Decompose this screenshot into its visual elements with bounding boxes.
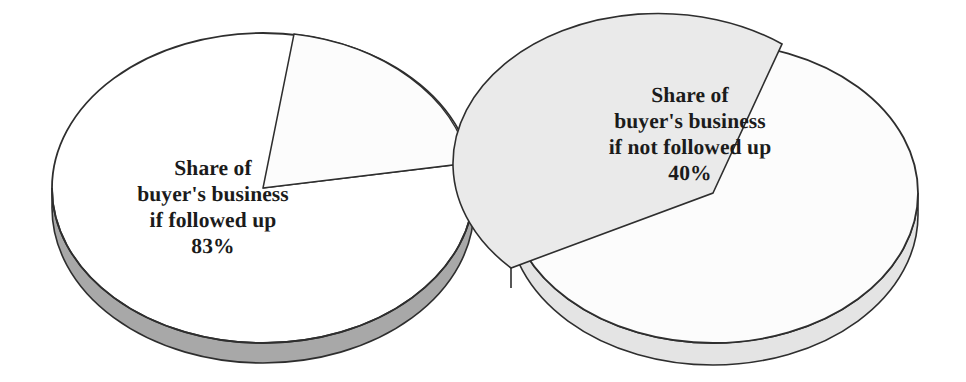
pie-left-label-line-3: if followed up	[78, 207, 348, 233]
pie-left-label-percent: 83%	[78, 233, 348, 259]
pie-left-label-line-1: Share of	[78, 155, 348, 181]
pie-right-label-line-1: Share of	[540, 82, 840, 108]
pie-right-label-line-2: buyer's business	[540, 108, 840, 134]
pie-left-label: Share of buyer's business if followed up…	[78, 155, 348, 259]
pie-right-label: Share of buyer's business if not followe…	[540, 82, 840, 186]
pie-right-label-line-3: if not followed up	[540, 134, 840, 160]
pie-chart-figure: Share of buyer's business if followed up…	[0, 0, 966, 382]
pie-left-label-line-2: buyer's business	[78, 181, 348, 207]
pie-right-chart	[453, 13, 918, 365]
pie-right-label-percent: 40%	[540, 160, 840, 186]
